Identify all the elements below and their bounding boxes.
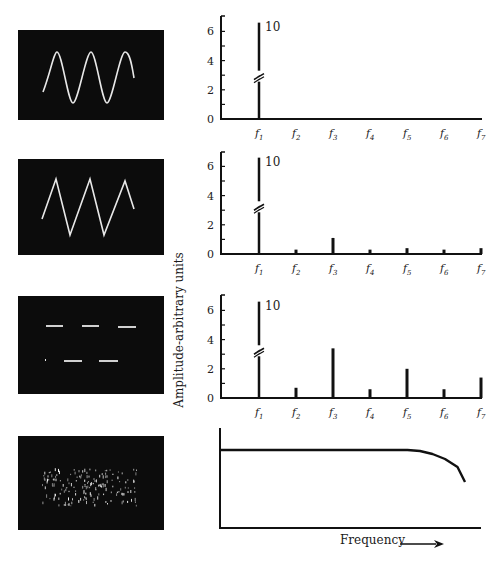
x-tick-label: f5	[402, 406, 412, 421]
x-tick-label: f7	[476, 127, 486, 142]
y-tick-label: 6	[207, 304, 214, 317]
x-tick-label: f7	[476, 406, 486, 421]
x-tick-label: f5	[402, 127, 412, 142]
y-tick-label: 2	[207, 219, 214, 232]
x-tick-label: f3	[328, 406, 338, 421]
y-tick-label: 6	[207, 160, 214, 173]
x-axis-label: Frequency	[340, 533, 405, 547]
x-tick-label: f2	[291, 127, 301, 142]
y-tick-label: 4	[207, 334, 214, 347]
x-tick-label: f6	[439, 127, 449, 142]
x-tick-label: f3	[328, 127, 338, 142]
noise-spectrum-line	[220, 450, 465, 482]
x-tick-label: f4	[365, 406, 375, 421]
y-tick-label: 0	[207, 113, 214, 126]
x-tick-label: f1	[254, 127, 264, 142]
y-tick-label: 4	[207, 55, 214, 68]
x-tick-label: f4	[365, 127, 375, 142]
x-tick-label: f6	[439, 262, 449, 277]
y-axis-label: Amplitude-arbitrary units	[172, 230, 188, 430]
break-label: 10	[265, 299, 280, 313]
y-tick-label: 2	[207, 363, 214, 376]
x-tick-label: f3	[328, 262, 338, 277]
break-label: 10	[265, 155, 280, 169]
x-tick-label: f6	[439, 406, 449, 421]
y-tick-label: 6	[207, 25, 214, 38]
x-tick-label: f1	[254, 262, 264, 277]
spectrum-charts: 0246f1f2f3f4f5f6f7100246f1f2f3f4f5f6f710…	[0, 0, 501, 565]
y-tick-label: 0	[207, 248, 214, 261]
x-tick-label: f2	[291, 406, 301, 421]
x-tick-label: f7	[476, 262, 486, 277]
x-tick-label: f5	[402, 262, 412, 277]
x-tick-label: f1	[254, 406, 264, 421]
x-tick-label: f4	[365, 262, 375, 277]
y-tick-label: 2	[207, 84, 214, 97]
x-tick-label: f2	[291, 262, 301, 277]
y-tick-label: 4	[207, 190, 214, 203]
break-label: 10	[265, 20, 280, 34]
y-tick-label: 0	[207, 392, 214, 405]
